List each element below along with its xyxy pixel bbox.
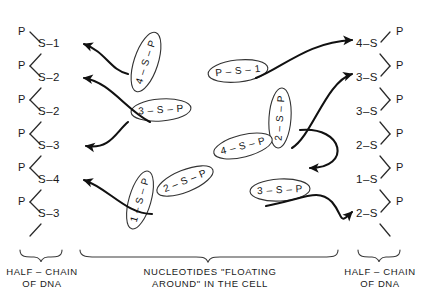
right-s-2: S <box>370 71 378 83</box>
left-p-5: P <box>18 162 25 173</box>
right-s-5: S <box>370 173 378 185</box>
brace-middle <box>80 250 338 262</box>
brace-left-chain <box>20 250 62 262</box>
right-base-5: 1 <box>356 173 363 185</box>
left-p-2: P <box>18 60 25 71</box>
right-p-5: P <box>396 162 403 173</box>
left-base-5: 4 <box>53 173 60 185</box>
right-base-2: 3 <box>356 71 363 83</box>
right-unit-5: 1–S <box>356 174 378 186</box>
caption-right-half-chain: HALF – CHAIN OF DNA <box>338 266 422 290</box>
left-chain-backbone <box>30 32 41 236</box>
left-unit-4: S–3 <box>38 140 60 152</box>
left-s-3: S <box>38 105 46 117</box>
right-unit-4: 2–S <box>356 140 378 152</box>
right-chain-backbone <box>380 32 390 236</box>
left-p-3: P <box>18 94 25 105</box>
right-unit-6: 2–S <box>356 208 378 220</box>
left-s-1: S <box>38 37 46 49</box>
right-dash-4: – <box>363 139 370 151</box>
right-dash-5: – <box>363 173 370 185</box>
caption-middle-line2: AROUND" IN THE CELL <box>120 278 300 290</box>
right-dash-3: – <box>363 105 370 117</box>
right-p-4: P <box>396 128 403 139</box>
left-base-6: 3 <box>53 207 60 219</box>
left-s-2: S <box>38 71 46 83</box>
right-unit-2: 3–S <box>356 72 378 84</box>
caption-middle-nucleotides: NUCLEOTIDES "FLOATING AROUND" IN THE CEL… <box>120 266 300 290</box>
left-s-4: S <box>38 139 46 151</box>
caption-middle-line1: NUCLEOTIDES "FLOATING <box>120 266 300 278</box>
left-p-6: P <box>18 196 25 207</box>
left-s-5: S <box>38 173 46 185</box>
caption-right-line1: HALF – CHAIN <box>338 266 422 278</box>
right-dash-2: – <box>363 71 370 83</box>
left-p-1: P <box>18 26 25 37</box>
arrow-loop-mid-right <box>300 130 338 168</box>
right-p-6: P <box>396 196 403 207</box>
left-p-4: P <box>18 128 25 139</box>
right-base-1: 4 <box>356 37 363 49</box>
left-unit-5: S–4 <box>38 174 60 186</box>
right-dash-1: – <box>363 37 370 49</box>
right-base-3: 3 <box>356 105 363 117</box>
caption-left-half-chain: HALF – CHAIN OF DNA <box>0 266 84 290</box>
left-base-1: 1 <box>53 37 60 49</box>
right-p-3: P <box>396 94 403 105</box>
arrow-to-right-3s <box>292 74 352 148</box>
arrow-to-left-s1 <box>84 44 128 74</box>
diagram-canvas: P S–1 P S–2 P S–2 P S–3 P S–4 P S–3 P 4–… <box>0 0 423 300</box>
left-unit-3: S–2 <box>38 106 60 118</box>
caption-left-line2: OF DNA <box>0 278 84 290</box>
right-dash-6: – <box>363 207 370 219</box>
caption-right-line2: OF DNA <box>338 278 422 290</box>
right-s-1: S <box>370 37 378 49</box>
left-base-4: 3 <box>53 139 60 151</box>
left-unit-1: S–1 <box>38 38 60 50</box>
right-unit-1: 4–S <box>356 38 378 50</box>
arrow-to-right-4s <box>256 40 352 78</box>
right-p-1: P <box>396 26 403 37</box>
caption-left-line1: HALF – CHAIN <box>0 266 84 278</box>
arrow-to-left-s3 <box>86 122 128 147</box>
left-unit-6: S–3 <box>38 208 60 220</box>
right-s-4: S <box>370 139 378 151</box>
right-unit-3: 3–S <box>356 106 378 118</box>
right-p-2: P <box>396 60 403 71</box>
left-base-3: 2 <box>53 105 60 117</box>
left-unit-2: S–2 <box>38 72 60 84</box>
left-s-6: S <box>38 207 46 219</box>
caption-braces <box>20 250 400 262</box>
right-base-6: 2 <box>356 207 363 219</box>
left-base-2: 2 <box>53 71 60 83</box>
right-base-4: 2 <box>356 139 363 151</box>
brace-right-chain <box>358 250 400 262</box>
right-s-6: S <box>370 207 378 219</box>
right-s-3: S <box>370 105 378 117</box>
